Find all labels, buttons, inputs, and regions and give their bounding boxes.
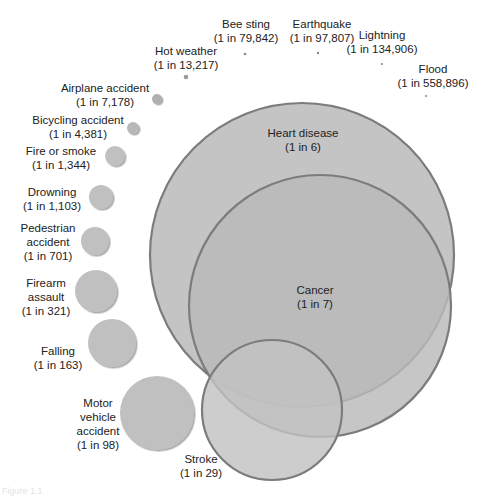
label-drowning: Drowning (1 in 1,103) xyxy=(20,185,84,213)
risk-bubble-chart: Heart disease (1 in 6) Cancer (1 in 7) S… xyxy=(0,0,478,497)
label-bicycling-accident: Bicycling accident (1 in 4,381) xyxy=(28,113,128,141)
label-cancer: Cancer (1 in 7) xyxy=(285,283,345,311)
bubble-motor-vehicle-accident xyxy=(120,376,194,450)
bubble-falling xyxy=(88,319,136,367)
bubble-pedestrian-accident xyxy=(81,227,109,255)
label-fire-or-smoke: Fire or smoke (1 in 1,344) xyxy=(22,144,100,172)
label-pedestrian-accident: Pedestrian accident (1 in 701) xyxy=(18,221,78,263)
bubble-hot-weather xyxy=(184,75,189,80)
label-flood: Flood (1 in 558,896) xyxy=(390,62,476,90)
label-stroke: Stroke (1 in 29) xyxy=(176,452,226,480)
label-bee-sting: Bee sting (1 in 79,842) xyxy=(208,17,284,45)
bubble-airplane-accident xyxy=(152,94,162,104)
bubble-bee-sting xyxy=(244,53,247,56)
bubbles-group xyxy=(75,52,454,480)
label-heart-disease: Heart disease (1 in 6) xyxy=(262,126,344,154)
label-airplane-accident: Airplane accident (1 in 7,178) xyxy=(58,81,152,109)
bubble-earthquake xyxy=(317,52,319,54)
label-hot-weather: Hot weather (1 in 13,217) xyxy=(148,44,224,72)
bubble-drowning xyxy=(89,185,113,209)
bubble-bicycling-accident xyxy=(127,122,139,134)
bubble-lightning xyxy=(381,63,383,65)
bubble-flood xyxy=(425,95,427,97)
label-motor-vehicle-accident: Motor vehicle accident (1 in 98) xyxy=(70,396,126,452)
bubble-fire-or-smoke xyxy=(105,146,125,166)
bubble-firearm-assault xyxy=(75,270,117,312)
figure-caption: Figure 1.1 xyxy=(2,486,43,496)
label-firearm-assault: Firearm assault (1 in 321) xyxy=(18,276,74,318)
label-falling: Falling (1 in 163) xyxy=(30,344,86,372)
label-lightning: Lightning (1 in 134,906) xyxy=(340,28,424,56)
